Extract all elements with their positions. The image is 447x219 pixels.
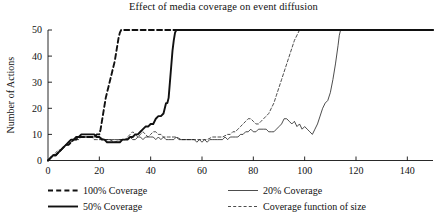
chart-figure: Effect of media coverage on event diffus…: [0, 0, 447, 219]
legend-entry-1: 20% Coverage: [228, 185, 428, 196]
legend-swatch-2: [48, 202, 78, 211]
x-tick-label: 40: [146, 165, 156, 176]
legend-label-0: 100% Coverage: [83, 185, 147, 196]
legend-entry-2: 50% Coverage: [48, 201, 228, 212]
x-tick-label: 0: [46, 165, 51, 176]
legend-entry-0: 100% Coverage: [48, 185, 228, 196]
y-axis: 01020304050: [32, 24, 52, 166]
data-series-group: [48, 30, 433, 161]
legend-entry-3: Coverage function of size: [228, 201, 428, 212]
y-tick-label: 30: [32, 77, 42, 88]
x-tick-label: 80: [248, 165, 258, 176]
legend-swatch-3: [228, 202, 258, 211]
chart-legend: 100% Coverage20% Coverage50% CoverageCov…: [48, 182, 428, 214]
x-tick-label: 100: [297, 165, 312, 176]
y-tick-label: 20: [32, 103, 42, 114]
legend-swatch-1: [228, 186, 258, 195]
y-axis-title: Number of Actions: [5, 57, 16, 134]
legend-label-3: Coverage function of size: [263, 201, 366, 212]
legend-label-1: 20% Coverage: [263, 185, 322, 196]
legend-swatch-0: [48, 186, 78, 195]
y-axis-title-text: Number of Actions: [5, 57, 16, 134]
y-tick-label: 40: [32, 51, 42, 62]
x-tick-label: 140: [400, 165, 415, 176]
y-tick-label: 10: [32, 129, 42, 140]
x-tick-label: 120: [349, 165, 364, 176]
legend-label-2: 50% Coverage: [83, 201, 142, 212]
x-axis: 020406080100120140: [46, 157, 434, 176]
y-tick-label: 0: [37, 155, 42, 166]
x-tick-label: 20: [94, 165, 104, 176]
x-tick-label: 60: [197, 165, 207, 176]
y-tick-label: 50: [32, 24, 42, 35]
